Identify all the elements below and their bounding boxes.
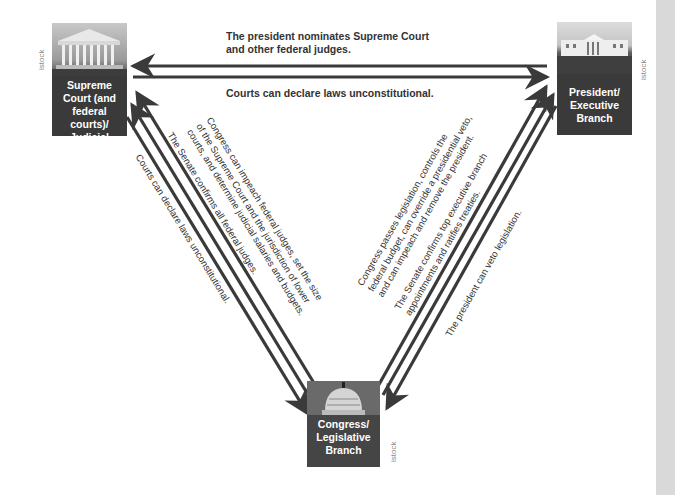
capitol-dome-photo-icon — [307, 381, 380, 415]
executive-label-line: Branch — [557, 112, 632, 125]
judicial-branch-box: Supreme Court (and federal courts)/ Judi… — [52, 23, 127, 136]
exec-to-judicial-text: The president nominates Supreme Court an… — [226, 30, 429, 56]
legislative-photo-credit: istock — [389, 442, 398, 462]
legislative-label-line: Branch — [307, 444, 380, 457]
judicial-to-exec-text: Courts can declare laws unconstitutional… — [226, 87, 434, 100]
legislative-label-line: Legislative — [307, 431, 380, 444]
arrow-exec-to-leg — [387, 106, 556, 408]
judicial-label-line: federal courts)/ — [52, 105, 127, 131]
executive-label-line: President/ — [557, 86, 632, 99]
executive-photo-credit: istock — [639, 60, 648, 80]
text-line: Courts can declare laws unconstitutional… — [226, 87, 434, 100]
legislative-branch-box: Congress/ Legislative Branch — [307, 405, 380, 467]
judicial-photo-credit: istock — [37, 50, 46, 70]
judicial-label-line: Court (and — [52, 92, 127, 105]
text-line: The president nominates Supreme Court — [226, 30, 429, 43]
judicial-label-line: Supreme — [52, 79, 127, 92]
text-line: and other federal judges. — [226, 43, 429, 56]
executive-label-line: Executive — [557, 99, 632, 112]
legislative-label-line: Congress/ — [307, 418, 380, 431]
white-house-photo-icon — [557, 22, 632, 74]
supreme-court-photo-icon — [52, 23, 127, 76]
judicial-label-line: Judicial Branch — [52, 131, 127, 157]
executive-branch-box: President/ Executive Branch — [557, 22, 632, 135]
